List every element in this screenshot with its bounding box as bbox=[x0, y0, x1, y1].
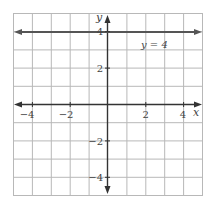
x-axis-left-arrow-icon bbox=[14, 102, 22, 108]
x-tick-label-neg4: −4 bbox=[20, 109, 35, 120]
x-axis-label: x bbox=[193, 106, 200, 119]
x-tick-label-2: 2 bbox=[143, 109, 149, 120]
coordinate-plane: x y −4 −2 2 4 4 2 −2 −4 y = 4 bbox=[0, 0, 207, 198]
y-axis-up-arrow-icon bbox=[105, 15, 111, 23]
y-axis-down-arrow-icon bbox=[105, 186, 111, 194]
line-right-arrow-icon bbox=[194, 29, 202, 35]
y-tick-label-4: 4 bbox=[97, 26, 103, 37]
y-tick-label-neg2: −2 bbox=[88, 136, 103, 147]
y-tick-label-2: 2 bbox=[97, 63, 103, 74]
line-label: y = 4 bbox=[140, 39, 168, 50]
line-left-arrow-icon bbox=[14, 29, 22, 35]
y-tick-label-neg4: −4 bbox=[88, 172, 103, 183]
x-tick-label-4: 4 bbox=[180, 109, 186, 120]
x-tick-label-neg2: −2 bbox=[59, 109, 74, 120]
y-axis-label: y bbox=[95, 11, 103, 24]
